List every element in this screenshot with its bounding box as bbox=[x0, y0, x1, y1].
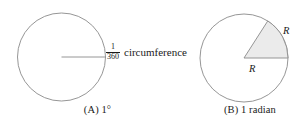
figure-root: 1 360 circumference (A) 1° R R (B) 1 rad… bbox=[0, 0, 305, 125]
caption-text-b: 1 radian bbox=[241, 104, 276, 115]
fraction-one-over-threesixty: 1 360 bbox=[106, 43, 120, 61]
panel-radian: R R (B) 1 radian bbox=[195, 0, 305, 125]
caption-tag-a: (A) bbox=[84, 104, 99, 115]
arc-radius-label-r: R bbox=[283, 25, 289, 36]
panel-degree: 1 360 circumference (A) 1° bbox=[0, 0, 195, 125]
circumference-annotation: 1 360 circumference bbox=[106, 43, 187, 61]
caption-tag-b: (B) bbox=[224, 104, 238, 115]
fraction-numerator: 1 bbox=[110, 43, 116, 52]
caption-text-a: 1° bbox=[101, 104, 111, 115]
fraction-denominator: 360 bbox=[106, 53, 120, 62]
circumference-label: circumference bbox=[124, 46, 187, 58]
horizontal-radius-label-r: R bbox=[249, 63, 255, 74]
caption-panel-a: (A) 1° bbox=[0, 104, 195, 116]
caption-panel-b: (B) 1 radian bbox=[195, 104, 305, 116]
